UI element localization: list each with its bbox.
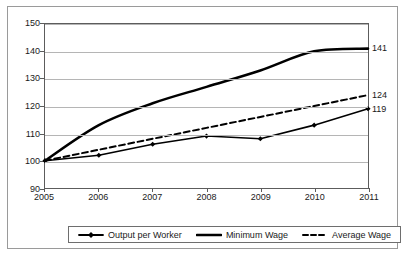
y-axis-tick-label: 110 [26,129,40,138]
legend-item-average-wage[interactable]: Average Wage [302,230,391,240]
x-axis-tick-label: 2010 [305,192,325,202]
series-end-label: 141 [372,43,387,52]
chart-legend: Output per WorkerMinimum WageAverage Wag… [68,226,401,243]
series-end-label: 119 [372,104,386,113]
x-axis-tick-label: 2006 [88,192,108,202]
gridline [45,24,368,25]
legend-item-label: Average Wage [332,230,391,240]
x-axis-tick-label: 2009 [251,192,271,202]
legend-item-output-per-worker[interactable]: Output per Worker [78,230,182,240]
series-end-label: 124 [372,90,387,99]
y-axis-tick-label: 100 [25,157,40,166]
gridline [45,52,368,53]
legend-swatch-solid-with-markers [78,230,104,240]
data-point-marker [312,123,317,128]
legend-item-label: Output per Worker [108,230,182,240]
y-axis-tick-label: 130 [25,74,40,83]
chart-container: 15014013012011010090 2005200620072008200… [0,0,405,256]
legend-swatch-solid-thick [196,230,222,240]
gridline [45,107,368,108]
y-axis-tick-label: 150 [25,19,40,28]
x-axis-tick-label: 2008 [196,192,216,202]
series-layer [45,24,368,188]
data-point-marker [258,136,263,141]
y-axis-tick-label: 140 [25,46,40,55]
legend-item-minimum-wage[interactable]: Minimum Wage [196,230,288,240]
x-axis-tick-label: 2011 [359,192,378,202]
plot-area [44,23,369,189]
gridline [45,162,368,163]
y-axis: 15014013012011010090 [14,23,40,189]
legend-item-label: Minimum Wage [226,230,288,240]
gridline [45,79,368,80]
series-end-labels: 141124119 [372,23,400,189]
x-axis-tick-label: 2007 [142,192,162,202]
y-axis-tick-label: 120 [25,102,40,111]
data-point-marker [96,153,101,158]
x-axis: 2005200620072008200920102011 [44,192,369,206]
gridline [45,135,368,136]
legend-swatch-dashed [302,230,328,240]
x-axis-tick-label: 2005 [34,192,54,202]
data-point-marker [150,142,155,147]
legend-marker-diamond [88,232,94,238]
